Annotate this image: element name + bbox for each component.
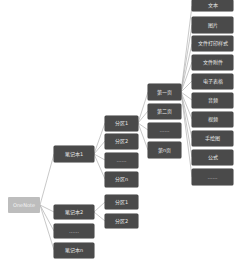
node-nb2-section-2: 分区2 [105,214,138,228]
node-content-equation: 公式 [192,150,233,165]
node-section-ellipsis: …… [105,153,138,168]
onenote-structure-diagram: OneNote 笔记本1 笔记本2 …… 笔记本n 分区1 分区2 …… 分区n… [0,0,237,266]
node-page-ellipsis: …… [148,123,181,138]
node-page-n: 第n页 [148,142,181,158]
node-content-text: 文本 [192,0,233,11]
node-section-1: 分区1 [105,116,138,131]
node-notebook-1: 笔记本1 [54,146,94,162]
node-content-audio: 音频 [192,93,233,108]
node-nb2-section-1: 分区1 [105,195,138,209]
node-content-spreadsheet: 电子表格 [192,74,233,89]
node-notebook-n: 笔记本n [54,243,94,258]
node-content-printout: 文件打印样式 [192,36,233,51]
node-content-ellipsis: …… [192,169,233,185]
node-content-attachment: 文件附件 [192,55,233,70]
node-notebook-2: 笔记本2 [54,205,94,219]
node-content-image: 图片 [192,17,233,33]
node-section-n: 分区n [105,172,138,187]
node-notebook-ellipsis: …… [54,224,94,238]
node-page-1: 第一页 [148,84,181,100]
node-onenote-root: OneNote [8,197,40,213]
node-page-2: 第二页 [148,104,181,119]
node-section-2: 分区2 [105,134,138,149]
node-content-drawing: 手绘图 [192,131,233,146]
node-content-video: 视频 [192,112,233,127]
